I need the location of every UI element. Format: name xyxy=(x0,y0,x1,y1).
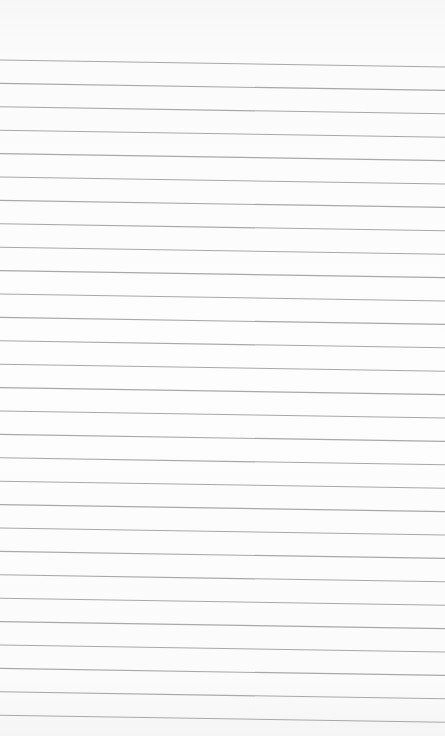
ruled-line xyxy=(0,528,445,535)
ruled-line xyxy=(0,83,445,90)
ruled-line xyxy=(0,154,445,161)
ruled-line xyxy=(0,622,445,629)
ruled-line xyxy=(0,411,445,418)
ruled-line xyxy=(0,294,445,301)
ruled-line xyxy=(0,505,445,512)
ruled-line xyxy=(0,458,445,465)
ruled-line xyxy=(0,388,445,395)
ruled-line xyxy=(0,224,445,231)
ruled-line xyxy=(0,200,445,207)
ruled-line xyxy=(0,60,445,67)
ruled-line xyxy=(0,271,445,278)
ruled-line xyxy=(0,107,445,114)
ruled-line xyxy=(0,481,445,488)
ruled-line xyxy=(0,341,445,348)
ruled-line xyxy=(0,247,445,254)
ruled-line xyxy=(0,715,445,722)
ruled-line xyxy=(0,668,445,675)
ruled-lines xyxy=(0,0,445,736)
ruled-line xyxy=(0,575,445,582)
ruled-line xyxy=(0,177,445,184)
ruled-line xyxy=(0,645,445,652)
ruled-line xyxy=(0,598,445,605)
ruled-line xyxy=(0,317,445,324)
ruled-line xyxy=(0,130,445,137)
ruled-line xyxy=(0,364,445,371)
ruled-paper-sheet xyxy=(0,0,445,736)
ruled-line xyxy=(0,551,445,558)
ruled-line xyxy=(0,434,445,441)
ruled-line xyxy=(0,692,445,699)
